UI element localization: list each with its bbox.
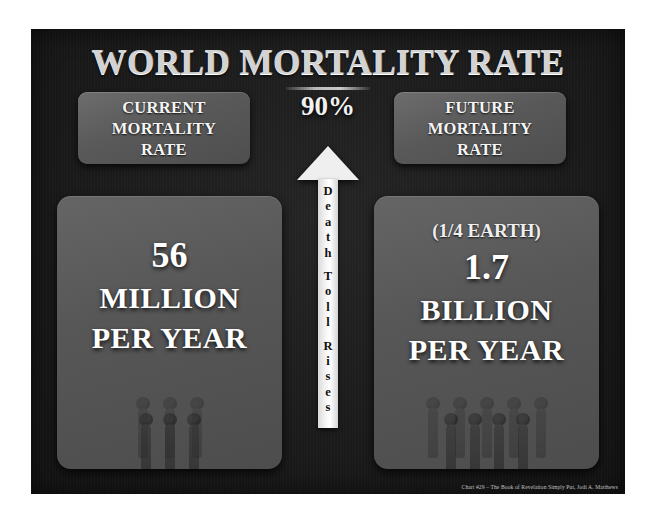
- stat-future-unit-1: BILLION: [374, 290, 599, 330]
- stat-future-text-block: (1/4 EARTH) 1.7 BILLION PER YEAR: [374, 218, 599, 370]
- arrow-char: D: [323, 184, 332, 199]
- stat-box-future-mortality: (1/4 EARTH) 1.7 BILLION PER YEAR: [374, 196, 599, 469]
- header-future-line-1: FUTURE: [445, 97, 515, 118]
- mourning-figure-icon: [183, 413, 205, 469]
- arrow-char: s: [326, 400, 331, 415]
- chart-credit-line: Chart #29 – The Book of Revelation Simpl…: [462, 483, 618, 491]
- page-title: WORLD MORTALITY RATE: [31, 42, 625, 84]
- arrow-char: o: [325, 284, 331, 299]
- arrow-char: s: [326, 369, 331, 384]
- mourning-figure-icon: [464, 413, 486, 469]
- arrow-char: e: [325, 199, 331, 214]
- stat-future-number: 1.7: [374, 244, 599, 290]
- arrow-char: e: [325, 385, 331, 400]
- mourning-figure-icon: [440, 413, 462, 469]
- arrow-char: h: [325, 246, 332, 261]
- mourning-figures-current: [57, 413, 282, 469]
- arrow-char: l: [326, 300, 329, 315]
- stat-current-number: 56: [57, 232, 282, 278]
- stat-future-note: (1/4 EARTH): [374, 218, 599, 244]
- arrow-char: R: [323, 339, 332, 354]
- arrow-char: l: [326, 315, 329, 330]
- header-box-current-mortality-rate: CURRENT MORTALITY RATE: [78, 92, 250, 164]
- chart-panel: WORLD MORTALITY RATE CURRENT MORTALITY R…: [31, 29, 625, 494]
- stat-current-text-block: 56 MILLION PER YEAR: [57, 232, 282, 358]
- mourning-figure-icon: [135, 413, 157, 469]
- mourning-figure-icon: [159, 413, 181, 469]
- header-current-line-3: RATE: [141, 139, 187, 160]
- stat-future-unit-2: PER YEAR: [374, 330, 599, 370]
- page-root: WORLD MORTALITY RATE CURRENT MORTALITY R…: [0, 0, 656, 519]
- stat-current-unit-1: MILLION: [57, 278, 282, 318]
- mourning-figure-icon: [488, 413, 510, 469]
- mourning-figures-future: [374, 413, 599, 469]
- percent-increase-label: 90%: [268, 91, 388, 122]
- stat-box-current-mortality: 56 MILLION PER YEAR: [57, 196, 282, 469]
- header-box-future-mortality-rate: FUTURE MORTALITY RATE: [394, 92, 566, 164]
- header-future-line-3: RATE: [457, 139, 503, 160]
- up-arrow-icon: [297, 146, 359, 180]
- header-current-line-2: MORTALITY: [112, 118, 217, 139]
- stat-current-unit-2: PER YEAR: [57, 318, 282, 358]
- header-current-line-1: CURRENT: [122, 97, 206, 118]
- arrow-char: t: [326, 230, 330, 245]
- header-future-line-2: MORTALITY: [428, 118, 533, 139]
- arrow-char: a: [325, 215, 331, 230]
- title-underline-rule: [286, 87, 370, 90]
- arrow-char: i: [326, 354, 329, 369]
- arrow-vertical-label: D e a t h T o l l R i s e s: [318, 184, 338, 424]
- mourning-figure-icon: [512, 413, 534, 469]
- death-toll-rises-arrow: D e a t h T o l l R i s e s: [297, 146, 359, 428]
- arrow-char: T: [324, 269, 332, 284]
